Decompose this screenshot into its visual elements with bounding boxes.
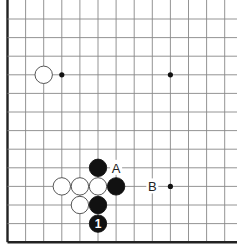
black-stone <box>89 196 106 213</box>
star-point <box>168 184 173 189</box>
marker-label-a: A <box>112 161 121 176</box>
board-grid <box>8 0 238 242</box>
black-stone <box>89 159 106 176</box>
white-stone <box>89 178 106 195</box>
white-stone <box>71 178 88 195</box>
white-stone <box>35 66 52 83</box>
star-point <box>168 72 173 77</box>
white-stone <box>71 196 88 213</box>
move-number: 1 <box>95 217 102 231</box>
white-stone <box>53 178 70 195</box>
marker-label-b: B <box>148 179 157 194</box>
black-stone: 1 <box>89 215 106 232</box>
star-point <box>59 72 64 77</box>
black-stone <box>107 178 124 195</box>
go-board: AB 1 <box>0 0 237 250</box>
